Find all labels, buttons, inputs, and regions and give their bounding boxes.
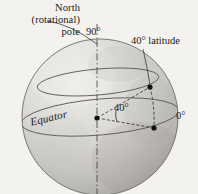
latitude-callout-label: 40° latitude [131,35,180,47]
north-pole-label-line3: pole [62,26,80,37]
pole-angle-label: 90° [86,26,101,38]
north-pole-label: North(rotational)pole [32,2,80,37]
north-pole-label-line2: (rotational) [32,14,80,25]
point-at-equator [151,125,156,130]
earth-center-point [94,115,99,120]
prime-meridian-label: 0° [176,110,185,122]
angle-value-label: 40° [114,102,129,114]
point-at-40-latitude [147,84,152,89]
north-pole-label-line1: North [55,2,80,13]
